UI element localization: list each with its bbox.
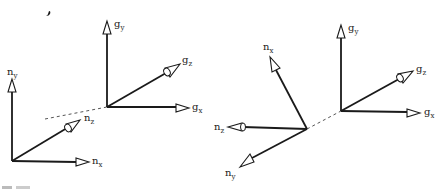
left-origin-connector	[45, 107, 107, 119]
left-gz-label: gz	[182, 54, 192, 68]
left-nx-arrowhead	[76, 158, 89, 166]
right-nz-ring	[241, 123, 246, 131]
right-ny-arrowhead	[240, 154, 254, 167]
right-ny-label: ny	[225, 167, 235, 181]
caption-fragment	[2, 186, 12, 189]
right-gz-label: gz	[416, 63, 426, 77]
right-nz-arrowhead	[228, 123, 242, 131]
left-ny-arrowhead	[8, 79, 16, 92]
right-nx-label: nx	[263, 41, 273, 55]
right-nz-axis	[243, 127, 307, 129]
left-panel: ny nx nz gy gz gx	[7, 18, 202, 169]
right-gy-label: gy	[348, 22, 358, 36]
right-gx-arrowhead	[407, 109, 420, 117]
right-nz-label: nz	[214, 121, 224, 135]
caption-fragment	[16, 186, 30, 189]
left-g-frame: gy gz gx	[103, 18, 202, 115]
right-origin-connector	[307, 111, 341, 129]
right-gx-axis	[341, 111, 407, 112]
right-g-frame: gy gz gx	[337, 22, 434, 120]
left-nx-label: nx	[92, 155, 102, 169]
right-nx-arrowhead	[270, 57, 280, 72]
right-nx-axis	[276, 70, 307, 129]
left-n-frame: ny nx nz	[7, 66, 102, 169]
stray-mark	[46, 11, 50, 16]
right-n-frame: nx nz ny	[214, 41, 307, 181]
left-gx-label: gx	[192, 101, 202, 115]
right-gz-axis	[341, 79, 399, 111]
right-gx-label: gx	[424, 106, 434, 120]
left-nx-axis	[12, 161, 76, 162]
left-gz-axis	[107, 73, 166, 107]
right-gy-arrowhead	[337, 25, 345, 38]
left-gy-label: gy	[114, 18, 124, 32]
coordinate-frames-diagram: ny nx nz gy gz gx	[0, 0, 436, 191]
left-nz-label: nz	[84, 112, 94, 126]
right-panel: nx nz ny gy gz gx	[214, 22, 434, 181]
left-gx-arrowhead	[176, 104, 189, 112]
right-ny-axis	[252, 129, 307, 158]
left-gy-arrowhead	[103, 21, 111, 34]
left-nz-axis	[12, 128, 67, 161]
